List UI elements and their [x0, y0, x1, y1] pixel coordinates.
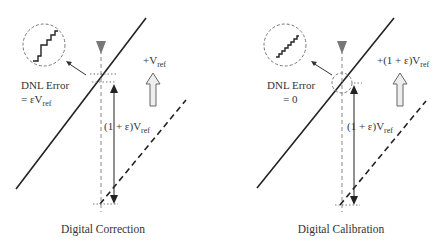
shift-label: +(1 + ε)Vref — [377, 54, 430, 69]
staircase-uniform-icon — [276, 36, 299, 57]
caption-digital-correction: Digital Correction — [61, 223, 145, 236]
panel-digital-calibration: +(1 + ε)Vref DNL Error = 0 (1 + ε)Vref D… — [257, 18, 430, 236]
shift-up-arrow-icon — [393, 73, 407, 106]
caption-digital-calibration: Digital Calibration — [298, 223, 385, 236]
step-arrow-head-down-icon — [350, 196, 358, 205]
shifted-transfer-line — [340, 101, 426, 205]
panel-digital-correction: +Vref DNL Error = εVref (1 + ε)Vref Digi… — [16, 18, 186, 236]
diagram: +Vref DNL Error = εVref (1 + ε)Vref Digi… — [0, 0, 441, 244]
step-arrow-head-up-icon — [350, 85, 358, 94]
shifted-transfer-line — [100, 100, 186, 204]
zoom-circle — [264, 24, 306, 66]
dnl-error-label: DNL Error — [267, 79, 315, 91]
shift-up-arrow-icon — [146, 73, 160, 106]
step-arrow-head-down-icon — [110, 195, 118, 204]
marker-triangle-icon — [337, 41, 347, 54]
dnl-error-value: = 0 — [283, 93, 298, 105]
dnl-error-label: DNL Error — [21, 79, 69, 91]
transfer-line — [257, 18, 394, 188]
dnl-error-value: = εVref — [21, 93, 52, 108]
pointer-arrow — [313, 63, 332, 75]
staircase-irregular-icon — [33, 31, 58, 61]
step-size-label: (1 + ε)Vref — [104, 120, 150, 135]
shift-label: +Vref — [143, 54, 166, 69]
marker-triangle-icon — [96, 41, 106, 54]
step-arrow-head-up-icon — [110, 84, 118, 93]
pointer-arrow — [68, 63, 86, 75]
